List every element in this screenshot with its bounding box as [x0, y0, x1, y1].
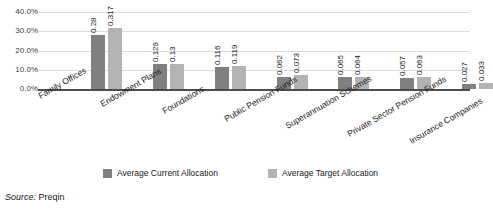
legend-swatch: [268, 169, 277, 178]
legend-label: Average Target Allocation: [282, 168, 378, 178]
bar-group: 0.280.317: [91, 12, 122, 89]
bar[interactable]: 0.116: [215, 67, 229, 89]
bar-value-label: 0.064: [354, 55, 362, 75]
legend-item[interactable]: Average Target Allocation: [268, 168, 378, 178]
bar-value-label: 0.073: [293, 53, 301, 73]
plot-area: 0.280.3170.1290.130.1160.1190.0620.0730.…: [38, 12, 470, 89]
chart-legend: Average Current AllocationAverage Target…: [0, 168, 479, 182]
bar-value-label: 0.063: [416, 55, 424, 75]
bar[interactable]: 0.057: [400, 78, 414, 89]
bar-value-label: 0.129: [152, 42, 160, 62]
bar[interactable]: 0.119: [232, 66, 246, 89]
y-axis-tick-label: 10.0%: [0, 66, 38, 74]
legend-swatch: [103, 169, 112, 178]
bar[interactable]: 0.28: [91, 35, 105, 89]
x-axis-category-labels: Family OfficesEndowment PlansFoundations…: [0, 91, 479, 166]
bar-group: 0.0270.033: [462, 12, 493, 89]
bar-value-label: 0.13: [169, 46, 177, 62]
bar-group: 0.1160.119: [215, 12, 246, 89]
bar-value-label: 0.28: [90, 18, 98, 34]
bar-value-label: 0.317: [107, 6, 115, 26]
bar[interactable]: 0.033: [479, 83, 493, 89]
source-label: Source:: [5, 192, 36, 202]
bar[interactable]: 0.13: [170, 64, 184, 89]
bar-value-label: 0.062: [276, 55, 284, 75]
bar-value-label: 0.033: [478, 61, 486, 81]
source-value: Preqin: [39, 192, 65, 202]
bar-value-label: 0.116: [214, 45, 222, 64]
source-note: Source: Preqin: [5, 192, 65, 203]
legend-label: Average Current Allocation: [117, 168, 218, 178]
bar-value-label: 0.027: [461, 62, 469, 82]
y-axis-tick-label: 30.0%: [0, 27, 38, 35]
y-axis-tick-label: 20.0%: [0, 47, 38, 55]
x-axis-category-label: Insurance Companies: [408, 97, 484, 146]
bar-value-label: 0.065: [337, 54, 345, 74]
bar-value-label: 0.119: [231, 45, 239, 64]
bar[interactable]: 0.317: [108, 28, 122, 89]
y-axis-tick-label: 40.0%: [0, 8, 38, 16]
legend-item[interactable]: Average Current Allocation: [103, 168, 218, 178]
bar-value-label: 0.057: [399, 56, 407, 76]
bar-group: 0.0570.063: [400, 12, 431, 89]
y-axis: 0.0%10.0%20.0%30.0%40.0%: [0, 0, 38, 100]
